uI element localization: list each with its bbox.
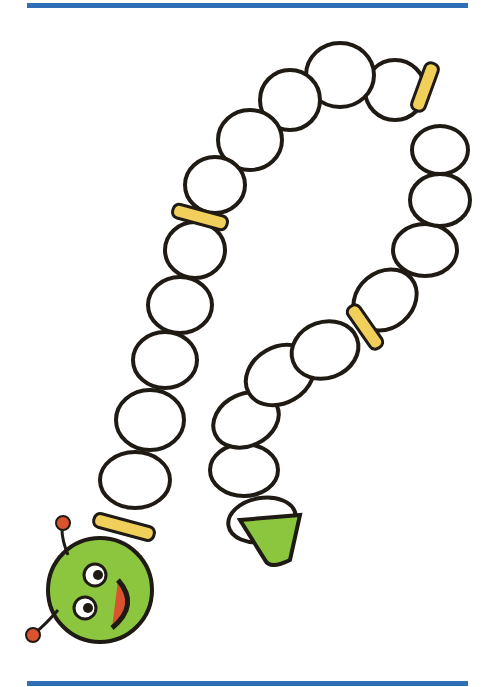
caterpillar-illustration — [0, 0, 500, 687]
